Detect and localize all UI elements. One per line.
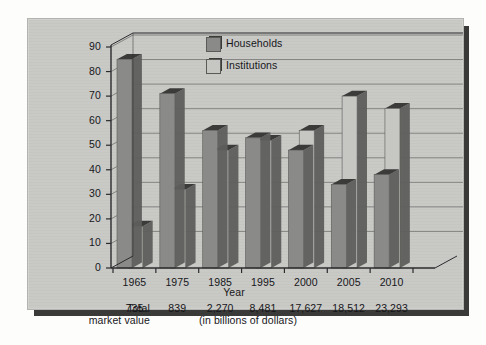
total-market-value-label-line2: market value — [64, 315, 150, 326]
legend-swatch-institutions — [206, 59, 221, 74]
y-axis-tick-label: 70 — [75, 90, 101, 101]
y-axis-tick-label: 0 — [75, 262, 101, 273]
legend-label-institutions: Institutions — [226, 60, 277, 71]
x-axis-tick-label: 1975 — [154, 277, 200, 288]
y-axis-tick-label: 40 — [75, 164, 101, 175]
y-axis-tick-label: 50 — [75, 139, 101, 150]
units-note: (in billions of dollars) — [188, 315, 308, 326]
y-axis-tick-label: 10 — [75, 237, 101, 248]
y-axis-tick-label: 60 — [75, 115, 101, 126]
legend-swatch-households — [206, 37, 221, 52]
y-axis-tick-label: 30 — [75, 188, 101, 199]
x-axis-tick-label: 2005 — [326, 277, 372, 288]
x-axis-tick-label: 2000 — [283, 277, 329, 288]
x-axis-title: Year — [208, 287, 260, 298]
y-axis-tick-label: 90 — [75, 41, 101, 52]
chart-figure: 0102030405060708090 19651975198519952000… — [0, 0, 486, 345]
x-axis-tick-label: 1965 — [111, 277, 157, 288]
total-market-value-cell: 23,293 — [366, 303, 418, 314]
legend-label-households: Households — [226, 38, 282, 49]
y-axis-tick-label: 80 — [75, 66, 101, 77]
x-axis-tick-label: 2010 — [369, 277, 415, 288]
chart-panel: 0102030405060708090 19651975198519952000… — [27, 18, 464, 310]
y-axis-tick-label: 20 — [75, 213, 101, 224]
